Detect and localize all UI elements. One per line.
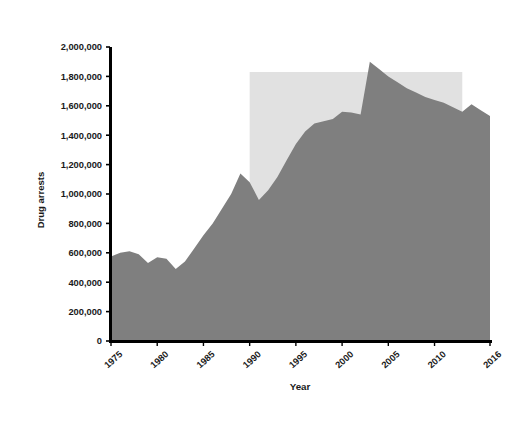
y-tick-label: 1,600,000 [61,101,102,111]
y-tick-label: 2,000,000 [61,42,102,52]
y-tick-label: 600,000 [68,248,102,258]
y-tick-label: 1,800,000 [61,72,102,82]
y-tick-label: 0 [97,336,102,346]
y-tick-label: 1,400,000 [61,131,102,141]
y-axis-title: Drug arrests [35,172,46,229]
y-tick-label: 200,000 [68,307,102,317]
drug-arrests-area-chart: 0200,000400,000600,000800,0001,000,0001,… [0,0,532,423]
y-tick-label: 1,200,000 [61,160,102,170]
y-tick-label: 800,000 [68,219,102,229]
y-tick-label: 400,000 [68,278,102,288]
x-axis-title: Year [290,381,311,392]
y-tick-label: 1,000,000 [61,189,102,199]
